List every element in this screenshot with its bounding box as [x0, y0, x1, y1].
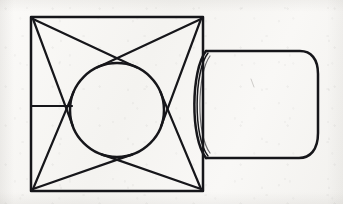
- technical-sketch-drawing: [0, 0, 343, 204]
- tangent-line-br-to-bottom: [102, 154, 201, 189]
- inscribed-circle: [70, 63, 164, 157]
- corner-tangent-lines-group: [33, 19, 201, 189]
- sketch-canvas: [0, 0, 343, 204]
- cylinder-body-outline: [206, 51, 318, 158]
- square-flange-group: [31, 17, 203, 191]
- pencil-smudge-mark: [251, 79, 254, 87]
- square-outline: [31, 17, 203, 191]
- cylinder-group: [194, 51, 318, 158]
